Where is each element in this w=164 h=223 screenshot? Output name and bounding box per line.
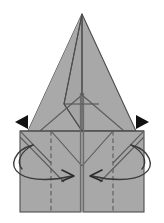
solid-arrow-right bbox=[136, 115, 149, 129]
solid-arrow-left bbox=[15, 115, 28, 129]
lower-rectangle-group bbox=[20, 131, 144, 212]
origami-diagram-figure bbox=[0, 0, 164, 223]
origami-diagram-canvas bbox=[0, 0, 164, 223]
